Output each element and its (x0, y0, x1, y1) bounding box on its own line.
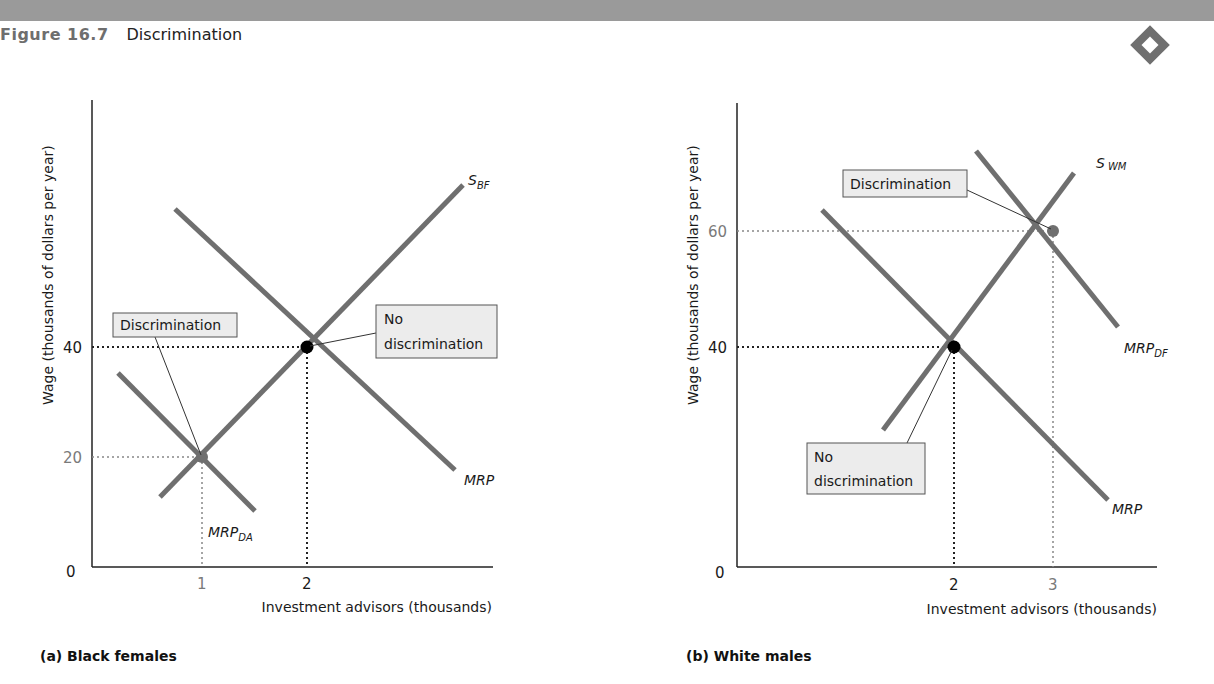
panel-b-mrp-label: MRP (1112, 501, 1143, 517)
panel-b-chart: Discrimination No discrimination SWM MRP… (685, 103, 1168, 617)
panel-a-discrimination-word-label: discrimination (384, 336, 483, 352)
panel-a-origin-label: 0 (66, 563, 76, 581)
panel-a-mrp-da-curve (118, 373, 255, 511)
panel-a-chart: Discrimination No discrimination SBF MRP… (40, 100, 497, 615)
panel-a-no-discrimination-box: No discrimination (376, 305, 497, 358)
panel-a-no-label: No (384, 311, 403, 327)
panel-a-discrimination-point (196, 451, 208, 463)
panel-a-y-axis-title: Wage (thousands of dollars per year) (40, 145, 56, 405)
panel-b-y-axis-title: Wage (thousands of dollars per year) (685, 145, 701, 405)
panel-a-mrp-label: MRP (464, 472, 495, 488)
panel-b-ytick-40: 40 (708, 339, 727, 357)
panel-b-discrimination-label: Discrimination (850, 176, 951, 192)
panel-b-no-label: No (814, 449, 833, 465)
panel-a-supply-label: SBF (468, 172, 490, 191)
panel-b-mrp-df-label: MRPDF (1124, 340, 1168, 359)
panel-a-x-axis-title: Investment advisors (thousands) (262, 599, 492, 615)
panel-a-caption: (a) Black females (40, 648, 177, 664)
panel-b-supply-label: SWM (1096, 155, 1127, 172)
panel-b-xtick-2: 2 (949, 576, 959, 594)
panel-b-mrp-df-curve (976, 151, 1118, 327)
panel-b-discrimination-box: Discrimination (843, 170, 967, 197)
panel-a-ytick-40: 40 (63, 339, 82, 357)
panel-b-caption: (b) White males (686, 648, 812, 664)
panel-b-discrimination-point (1047, 225, 1059, 237)
panel-b-xtick-3: 3 (1048, 576, 1058, 594)
panel-a-ytick-20: 20 (63, 449, 82, 467)
panel-b-origin-label: 0 (715, 564, 725, 582)
panel-a-discrimination-leader (155, 337, 201, 455)
panel-b-x-axis-title: Investment advisors (thousands) (927, 601, 1157, 617)
panel-a-no-discrimination-point (301, 341, 314, 354)
panel-a-discrimination-box: Discrimination (113, 313, 237, 337)
figure-canvas: Discrimination No discrimination SBF MRP… (0, 0, 1214, 684)
panel-a-discrimination-label: Discrimination (120, 317, 221, 333)
panel-a-xtick-1: 1 (197, 575, 207, 593)
panel-a-mrp-da-label: MRPDA (208, 524, 253, 543)
panel-a-xtick-2: 2 (302, 575, 312, 593)
panel-b-ytick-60: 60 (708, 223, 727, 241)
panel-b-no-discrimination-box: No discrimination (807, 443, 925, 494)
panel-b-no-discrimination-point (948, 341, 961, 354)
panel-b-discrimination-word-label: discrimination (814, 473, 913, 489)
